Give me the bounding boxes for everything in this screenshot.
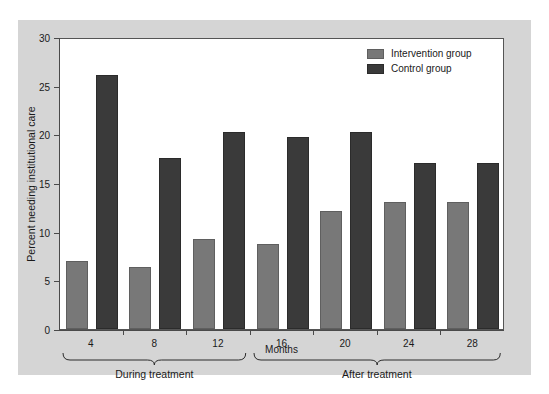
y-axis-tick-label: 5 [0, 276, 50, 287]
plot-frame [59, 38, 504, 330]
bar-control-28mo [477, 163, 499, 329]
legend-item-control: Control group [367, 63, 472, 74]
x-axis-tick [377, 330, 378, 335]
plot-area [60, 39, 503, 329]
x-axis-tick [186, 330, 187, 335]
bar-control-8mo [159, 158, 181, 329]
bar-control-16mo [287, 137, 309, 329]
legend-label-intervention: Intervention group [391, 48, 472, 59]
y-axis-tick-label: 10 [0, 227, 50, 238]
x-axis: 481216202428 [59, 330, 504, 331]
y-axis-tick [54, 184, 59, 185]
x-axis-tick [313, 330, 314, 335]
after-treatment-annotation-brace-icon [253, 352, 501, 366]
bar-intervention-16mo [257, 244, 279, 329]
during-treatment-annotation: During treatment [62, 352, 247, 386]
y-axis-tick [54, 135, 59, 136]
bar-control-20mo [350, 132, 372, 329]
bar-intervention-12mo [193, 239, 215, 329]
y-axis-tick-label: 30 [0, 33, 50, 44]
chart-legend: Intervention group Control group [367, 48, 472, 74]
x-axis-tick [123, 330, 124, 335]
y-axis-tick-label: 25 [0, 81, 50, 92]
bar-intervention-8mo [129, 267, 151, 329]
x-axis-tick [440, 330, 441, 335]
y-axis [59, 38, 60, 330]
after-treatment-annotation: After treatment [253, 352, 501, 386]
y-axis-tick [54, 233, 59, 234]
bar-intervention-20mo [320, 211, 342, 329]
after-treatment-annotation-label: After treatment [253, 368, 501, 380]
legend-swatch-icon-control [367, 64, 384, 74]
y-axis-tick [54, 87, 59, 88]
bar-control-24mo [414, 163, 436, 329]
y-axis-tick-label: 20 [0, 130, 50, 141]
legend-label-control: Control group [391, 63, 452, 74]
during-treatment-annotation-brace-icon [62, 352, 247, 366]
y-axis-tick-label: 0 [0, 325, 50, 336]
y-axis-tick [54, 38, 59, 39]
chart-figure: Percent needing institutional care 48121… [0, 0, 549, 394]
y-axis-tick-label: 15 [0, 179, 50, 190]
legend-swatch-icon-intervention [367, 49, 384, 59]
bar-intervention-28mo [447, 202, 469, 330]
x-axis-tick [250, 330, 251, 335]
bar-control-4mo [96, 75, 118, 329]
legend-item-intervention: Intervention group [367, 48, 472, 59]
y-axis-tick [54, 281, 59, 282]
during-treatment-annotation-label: During treatment [62, 368, 247, 380]
bar-control-12mo [223, 132, 245, 329]
bar-intervention-24mo [384, 202, 406, 330]
bar-intervention-4mo [66, 261, 88, 329]
